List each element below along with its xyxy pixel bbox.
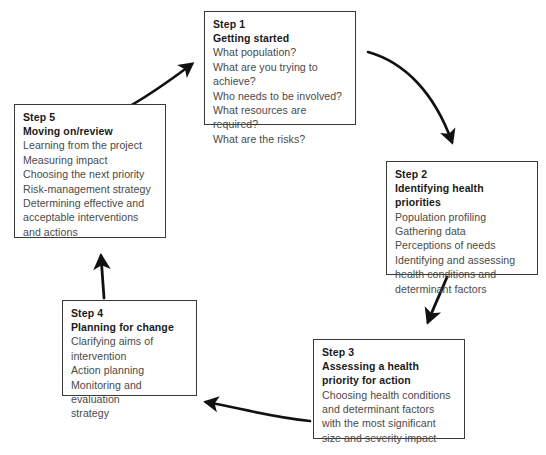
- step-number: Step 3: [322, 345, 457, 359]
- step-body-line: determinant factors: [395, 282, 530, 296]
- step-box-step3: Step 3 Assessing a health priority for a…: [313, 339, 465, 439]
- step-body-line: achieve?: [213, 74, 348, 88]
- step-body: Population profiling Gathering data Perc…: [395, 210, 530, 296]
- step-body: Choosing health conditions and determina…: [322, 388, 457, 446]
- step-body-line: Risk-management strategy: [23, 182, 158, 196]
- step-box-step1: Step 1 Getting started What population? …: [204, 11, 356, 125]
- step-number: Step 2: [395, 167, 530, 181]
- step-body-line: intervention: [71, 349, 189, 363]
- arrow-4-to-5: [101, 256, 104, 298]
- step-body-line: Population profiling: [395, 210, 530, 224]
- step-body-line: size and severity impact: [322, 431, 457, 445]
- step-title: Identifying health priorities: [395, 181, 530, 209]
- step-number: Step 4: [71, 306, 189, 320]
- step-body: Learning from the project Measuring impa…: [23, 138, 158, 239]
- arrow-1-to-2: [368, 52, 452, 142]
- step-title: Getting started: [213, 31, 348, 45]
- step-number: Step 1: [213, 17, 348, 31]
- step-body-line: and actions: [23, 225, 158, 239]
- step-box-step4: Step 4 Planning for change Clarifying ai…: [62, 300, 197, 396]
- step-title: Planning for change: [71, 320, 189, 334]
- step-body-line: Perceptions of needs: [395, 238, 530, 252]
- step-title: Assessing a health priority for action: [322, 359, 457, 387]
- step-body-line: What resources are required?: [213, 103, 348, 132]
- step-body-line: strategy: [71, 406, 189, 420]
- step-body-line: acceptable interventions: [23, 210, 158, 224]
- step-body-line: Identifying and assessing: [395, 253, 530, 267]
- step-body-line: Gathering data: [395, 224, 530, 238]
- step-body-line: Choosing health conditions: [322, 388, 457, 402]
- step-body-line: Choosing the next priority: [23, 167, 158, 181]
- step-number: Step 5: [23, 110, 158, 124]
- step-body-line: with the most significant: [322, 416, 457, 430]
- diagram-canvas: Step 1 Getting started What population? …: [0, 0, 546, 455]
- step-body-line: Learning from the project: [23, 138, 158, 152]
- step-body-line: What are the risks?: [213, 132, 348, 146]
- step-body-line: Determining effective and: [23, 196, 158, 210]
- step-body-line: Measuring impact: [23, 153, 158, 167]
- step-body-line: health conditions and: [395, 267, 530, 281]
- step-body-line: Clarifying aims of: [71, 334, 189, 348]
- step-body-line: What population?: [213, 45, 348, 59]
- step-box-step5: Step 5 Moving on/review Learning from th…: [14, 104, 166, 238]
- step-body: What population? What are you trying to …: [213, 45, 348, 146]
- step-body-line: Monitoring and evaluation: [71, 378, 189, 407]
- arrow-3-to-4: [206, 402, 310, 421]
- step-body-line: and determinant factors: [322, 402, 457, 416]
- step-body-line: Who needs to be involved?: [213, 89, 348, 103]
- step-title: Moving on/review: [23, 124, 158, 138]
- step-body: Clarifying aims of intervention Action p…: [71, 334, 189, 420]
- step-body-line: What are you trying to: [213, 60, 348, 74]
- step-body-line: Action planning: [71, 363, 189, 377]
- step-box-step2: Step 2 Identifying health priorities Pop…: [386, 161, 538, 275]
